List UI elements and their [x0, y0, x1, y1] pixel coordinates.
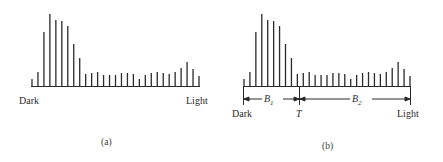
caption-b: (b): [322, 141, 333, 151]
b1-label: B1: [264, 93, 274, 107]
dark-label-b: Dark: [232, 108, 252, 119]
dark-label-a: Dark: [19, 95, 39, 106]
b2-label: B2: [352, 93, 362, 107]
histogram-a: [31, 14, 200, 87]
caption-a: (a): [101, 137, 112, 147]
b1-sub: 1: [270, 99, 274, 107]
threshold-label: T: [296, 108, 302, 119]
histogram-b: [243, 14, 411, 87]
light-label-b: Light: [397, 108, 419, 119]
histogram-figure: [0, 0, 443, 162]
b2-sub: 2: [358, 99, 362, 107]
light-label-a: Light: [186, 95, 208, 106]
